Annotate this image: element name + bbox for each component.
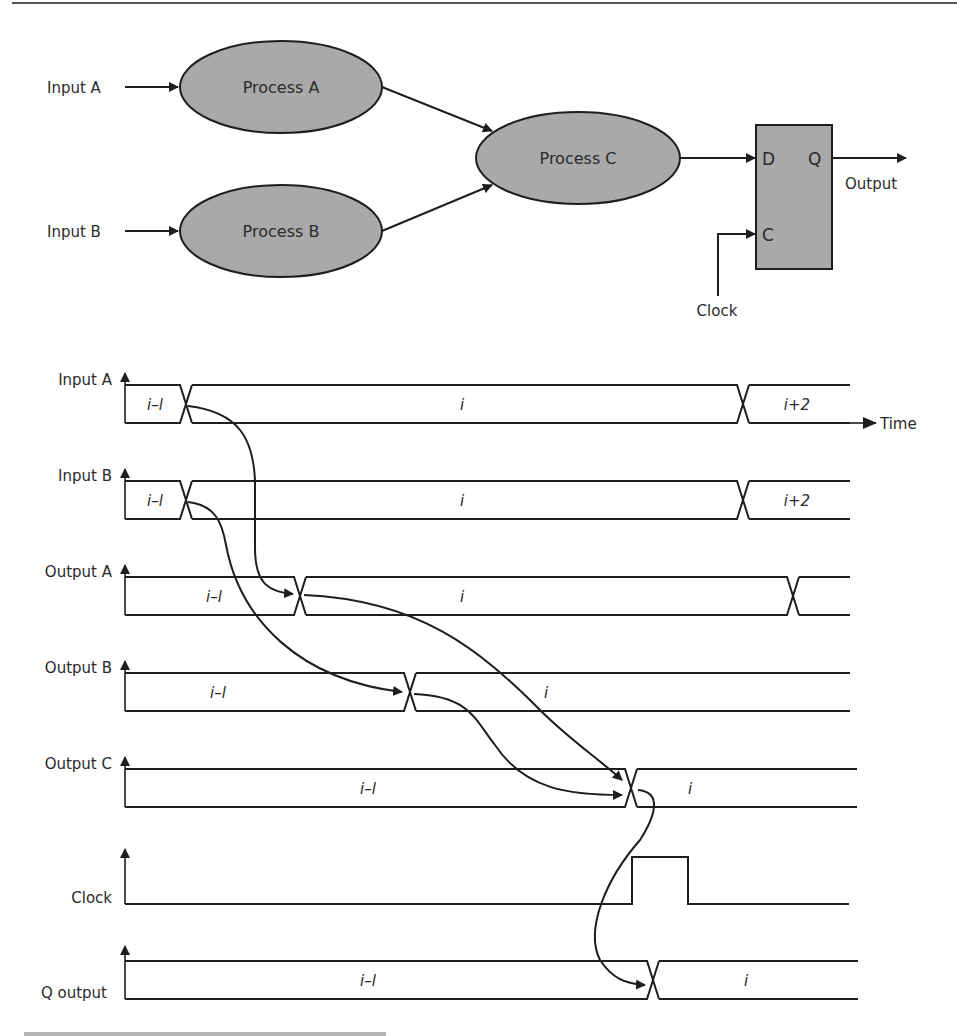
value-label: i–l: [147, 492, 164, 510]
signal-label: Output C: [45, 755, 112, 773]
input-a-to-output-a-arrow: [188, 406, 293, 594]
value-label: i–l: [210, 684, 227, 702]
segment: [793, 577, 850, 615]
input-a-label: Input A: [47, 79, 102, 97]
value-label: i–l: [360, 972, 377, 990]
segment: [186, 481, 743, 519]
signal-clock: Clock: [71, 849, 849, 907]
signal-output-a: Output A i–l i: [45, 563, 850, 615]
c-pin-label: C: [762, 225, 774, 245]
value-label: i: [460, 588, 465, 606]
causality-arrows: [188, 406, 654, 985]
signal-label: Output B: [45, 659, 112, 677]
segment: [186, 385, 743, 423]
segment: [125, 673, 410, 711]
process-b-label: Process B: [243, 222, 320, 241]
signal-label: Output A: [45, 563, 113, 581]
signal-label: Q output: [41, 984, 107, 1002]
output-a-to-output-c-arrow: [304, 595, 622, 780]
clock-waveform: [125, 857, 849, 904]
signal-label: Input A: [58, 371, 113, 389]
a-to-c-arrow: [382, 87, 492, 131]
bottom-bar: [24, 1032, 386, 1036]
segment: [631, 769, 857, 807]
clock-label: Clock: [697, 302, 738, 320]
timing-diagram: Input A Time i–l i i+2 Input B i–l i i+2…: [41, 371, 917, 1002]
signal-q-output: Q output i–l i: [41, 946, 858, 1002]
q-pin-label: Q: [808, 149, 821, 169]
segment: [653, 961, 858, 999]
process-c-label: Process C: [540, 149, 617, 168]
segment: [410, 673, 850, 711]
process-a-label: Process A: [243, 78, 320, 97]
d-pin-label: D: [762, 149, 775, 169]
output-label: Output: [845, 175, 897, 193]
segment: [125, 961, 653, 999]
time-axis-label: Time: [879, 415, 917, 433]
block-diagram: Input A Input B Process A Process B Proc…: [47, 41, 906, 320]
value-label: i: [544, 684, 549, 702]
signal-label: Clock: [71, 889, 112, 907]
signal-label: Input B: [58, 467, 112, 485]
b-to-c-arrow: [382, 185, 492, 231]
signal-input-a: Input A Time i–l i i+2: [58, 371, 917, 433]
value-label: i: [688, 780, 693, 798]
output-c-to-q-arrow: [595, 790, 654, 985]
signal-output-c: Output C i–l i: [45, 755, 857, 807]
value-label: i: [744, 972, 749, 990]
output-b-to-output-c-arrow: [414, 694, 622, 795]
segment: [300, 577, 793, 615]
diagram-canvas: Input A Input B Process A Process B Proc…: [0, 0, 957, 1036]
value-label: i–l: [206, 588, 223, 606]
clock-arrow: [718, 234, 755, 296]
value-label: i: [460, 492, 465, 510]
signal-input-b: Input B i–l i i+2: [58, 467, 850, 519]
value-label: i–l: [147, 396, 164, 414]
value-label: i+2: [784, 492, 810, 510]
value-label: i–l: [360, 780, 377, 798]
input-b-label: Input B: [47, 223, 101, 241]
value-label: i+2: [784, 396, 810, 414]
signal-output-b: Output B i–l i: [45, 659, 850, 711]
d-flip-flop: [756, 125, 832, 269]
value-label: i: [460, 396, 465, 414]
